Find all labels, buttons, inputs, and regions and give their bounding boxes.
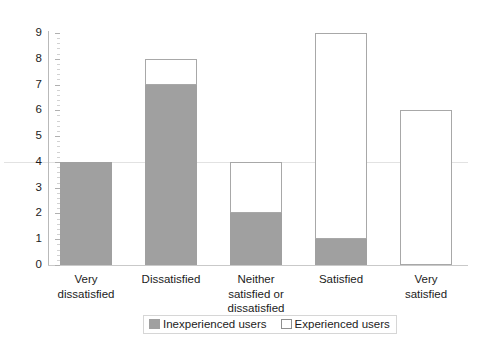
bar-group[interactable] [400,20,452,265]
x-axis-baseline [48,265,468,266]
category-label-line: satisfied [380,287,472,302]
category-label-line: Dissatisfied [125,272,217,287]
bar-group[interactable] [315,20,367,265]
bar-group[interactable] [230,20,282,265]
bar-group[interactable] [60,20,112,265]
filled-gray-swatch-icon [149,319,160,329]
y-axis-tick-label: 7 [20,79,42,90]
x-axis-category-label: Neithersatisfied ordissatisfied [210,272,302,316]
bar-segment-inexperienced[interactable] [60,162,112,265]
category-label-line: Neither [210,272,302,287]
category-label-line: Very [40,272,132,287]
outlined-white-swatch-icon [281,319,292,329]
legend-item-experienced: Experienced users [281,318,390,330]
bar-segment-experienced[interactable] [400,110,452,265]
y-axis-tick-label: 9 [20,27,42,38]
bar-segment-inexperienced[interactable] [230,213,282,265]
y-axis-tick-label: 0 [20,259,42,270]
bar-segment-inexperienced[interactable] [145,85,197,265]
x-axis-category-label: Dissatisfied [125,272,217,287]
x-axis-category-label: Verysatisfied [380,272,472,301]
y-axis-tick-mark [55,265,60,266]
y-axis-tick-label: 2 [20,207,42,218]
category-label-line: dissatisfied [210,301,302,316]
y-axis-tick-label: 8 [20,53,42,64]
bar-segment-inexperienced[interactable] [315,239,367,265]
legend-item-inexperienced: Inexperienced users [149,318,267,330]
bar-group[interactable] [145,20,197,265]
stacked-bar-chart: 0123456789 VerydissatisfiedDissatisfiedN… [0,0,482,344]
x-axis-category-label: Verydissatisfied [40,272,132,301]
bar-segment-experienced[interactable] [315,33,367,239]
y-axis-tick-label: 6 [20,104,42,115]
y-axis-tick-label: 5 [20,130,42,141]
category-label-line: Very [380,272,472,287]
legend-label-experienced: Experienced users [295,318,390,330]
legend-label-inexperienced: Inexperienced users [163,318,267,330]
chart-legend: Inexperienced users Experienced users [143,315,397,334]
bar-segment-experienced[interactable] [230,162,282,214]
y-axis-tick-label: 1 [20,233,42,244]
y-axis-tick-label: 4 [20,156,42,167]
x-axis-category-label: Satisfied [295,272,387,287]
bar-segment-experienced[interactable] [145,59,197,85]
category-label-line: satisfied or [210,287,302,302]
y-axis: 0123456789 [12,0,42,344]
y-axis-tick-label: 3 [20,182,42,193]
plot-area [48,20,468,265]
category-label-line: dissatisfied [40,287,132,302]
category-label-line: Satisfied [295,272,387,287]
